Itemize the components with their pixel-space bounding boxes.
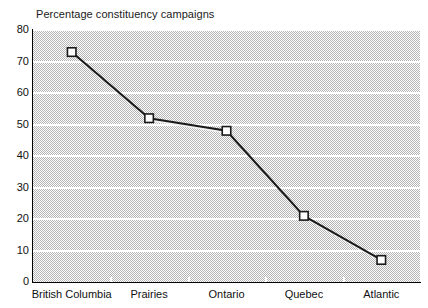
- series-markers: [67, 48, 385, 264]
- y-tick-label: 0: [3, 275, 29, 287]
- x-axis-line: [32, 282, 421, 283]
- y-tick-label: 10: [3, 244, 29, 256]
- series-shadow: [73, 54, 383, 262]
- x-tick-label: Prairies: [130, 288, 167, 300]
- y-tick-label: 60: [3, 86, 29, 98]
- y-axis-tick-labels: 01020304050607080: [0, 0, 29, 308]
- data-point-marker: [300, 212, 309, 221]
- x-tick-label: Atlantic: [363, 288, 399, 300]
- y-tick-label: 20: [3, 212, 29, 224]
- y-tick-label: 50: [3, 118, 29, 130]
- data-point-marker: [145, 114, 154, 123]
- y-tick-label: 80: [3, 23, 29, 35]
- data-series: [33, 30, 420, 282]
- data-point-marker: [67, 48, 76, 57]
- x-tick-label: Ontario: [208, 288, 244, 300]
- series-line: [72, 52, 382, 260]
- line-chart: Percentage constituency campaigns 010203…: [0, 0, 428, 308]
- data-point-marker: [377, 256, 386, 265]
- y-tick-label: 70: [3, 55, 29, 67]
- y-tick-label: 40: [3, 149, 29, 161]
- chart-title: Percentage constituency campaigns: [36, 8, 214, 20]
- y-tick-label: 30: [3, 181, 29, 193]
- x-tick-label: Quebec: [285, 288, 324, 300]
- data-point-marker: [222, 127, 231, 136]
- x-tick-label: British Columbia: [32, 288, 112, 300]
